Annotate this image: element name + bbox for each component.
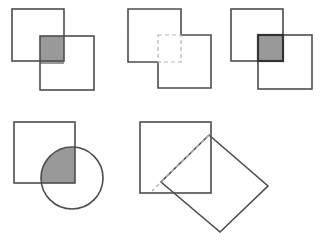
panel-union-outline bbox=[118, 0, 228, 105]
panel-intersection-shaded bbox=[0, 0, 110, 105]
union-outline bbox=[128, 9, 211, 88]
intersection-region bbox=[158, 35, 181, 62]
intersection-region bbox=[258, 35, 283, 61]
diamond bbox=[161, 135, 268, 232]
intersection-region bbox=[40, 36, 64, 64]
panel-square-diamond bbox=[130, 105, 290, 242]
figure-board bbox=[0, 0, 320, 242]
panel-square-circle bbox=[0, 105, 118, 242]
square bbox=[140, 122, 211, 193]
panel-intersection-outlined bbox=[222, 0, 320, 105]
